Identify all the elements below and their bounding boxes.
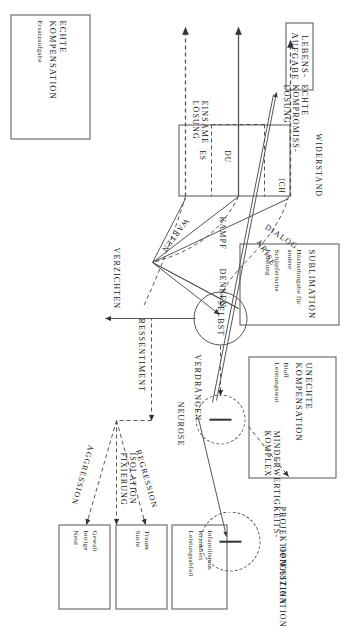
box-lebensaufgabe-title: LEBENS- AUFGABE	[289, 32, 309, 80]
label-denken: DENKEN	[217, 268, 226, 308]
box-sublimation-title: SUBLIMATION	[306, 249, 316, 319]
label-verdraengen: VERDRÄNGEN	[192, 354, 201, 421]
label-neurose: NEUROSE	[175, 401, 184, 446]
label-verzichten: VERZICHTEN	[111, 247, 120, 309]
label-echte-kompromiss-loesung: ECHTE KOMPROMISS- LÖSUNG	[280, 84, 308, 152]
box-unechte-kompensation-title: UNECHTE KOMPENSATION	[293, 362, 313, 441]
label-isolation-fixierung: ISOLATION FIXIERUNG	[118, 452, 136, 505]
arrow-ressentiment	[151, 318, 195, 420]
box-outcome-aggression-line-0: Gewalt	[89, 530, 98, 551]
label-einsame-loesung: EINSAME LÖSUNG	[190, 100, 208, 144]
box-outcome-aggression-line-2: Neid	[70, 530, 79, 544]
box-outcome-isolation: Traum Sucht	[115, 524, 167, 609]
label-kampf: KAMPF	[217, 216, 226, 249]
minus-mark-projektion	[219, 540, 241, 542]
box-lebensaufgabe: LEBENS- AUFGABE	[285, 22, 313, 90]
box-unechte-kompensation-line-0: Bluff	[280, 362, 289, 378]
box-outcome-aggression: Gewalt Intrige Neid	[58, 524, 110, 609]
box-outcome-isolation-line-0: Traum	[141, 530, 150, 549]
box-echte-kompensation-line-0: Ersatzaufgabe	[33, 20, 42, 62]
label-ressentiment: RESSENTIMENT	[136, 318, 145, 392]
box-sublimation-line-0: Höchsthingabe für	[293, 249, 302, 304]
box-echte-kompensation-title: ECHTE KOMPENSATION	[47, 20, 67, 99]
arrow-aggression	[86, 420, 116, 524]
box-sublimation-line-1: andere	[284, 249, 293, 269]
label-ich: ICH	[276, 178, 284, 193]
box-outcome-regression-line-2: Leistungsabfall	[185, 530, 194, 576]
circle-neurose	[195, 394, 245, 444]
label-widerstand: WIDERSTAND	[313, 133, 322, 197]
circle-projektion	[200, 511, 260, 571]
box-outcome-isolation-line-1: Sucht	[132, 530, 141, 547]
box-echte-kompensation: ECHTE KOMPENSATION Ersatzaufgabe	[10, 14, 90, 139]
label-es: ES	[197, 150, 205, 160]
box-unechte-kompensation-line-1: Leistungswut	[271, 362, 280, 402]
box-sublimation: SUBLIMATION Höchsthingabe für andere Sch…	[239, 243, 339, 325]
label-faszination: FASZINATION	[277, 563, 286, 627]
minus-mark-neurose	[209, 418, 231, 420]
box-outcome-aggression-line-1: Intrige	[79, 530, 88, 550]
label-du: DU	[222, 150, 230, 162]
